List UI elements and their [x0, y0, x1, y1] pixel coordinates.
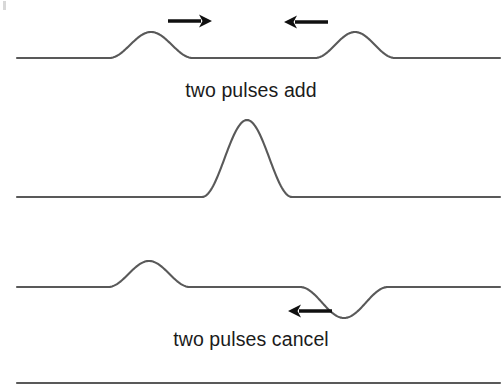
wave-curve-bottom-panel-opposite-pulses [17, 261, 500, 318]
direction-arrows-group [168, 15, 332, 318]
caption-two-pulses-cancel: two pulses cancel [0, 328, 502, 351]
arrow-top-panel-approaching-pulses-left-arrow [284, 16, 328, 29]
arrow-top-panel-approaching-pulses-right-arrow [168, 15, 212, 28]
wave-superposition-figure: two pulses add two pulses cancel [0, 0, 502, 392]
caption-two-pulses-add: two pulses add [0, 79, 502, 102]
wave-curve-middle-panel-constructive-sum [17, 120, 500, 197]
wave-curve-top-panel-approaching-pulses [17, 32, 500, 58]
